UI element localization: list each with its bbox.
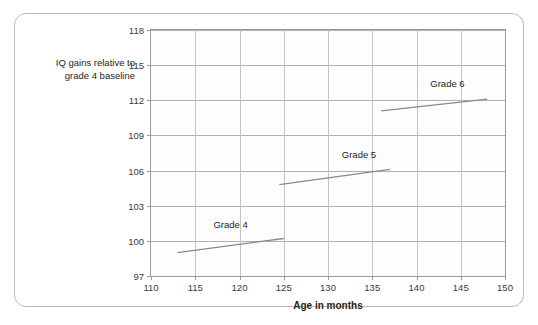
y-tick-label-100: 100: [128, 235, 144, 246]
x-tick-mark-120: [240, 276, 241, 280]
x-tick-mark-150: [505, 276, 506, 280]
series-line-grade-4: [178, 239, 284, 253]
y-tick-label-97: 97: [133, 271, 144, 282]
chart-card: IQ gains relative to grade 4 baseline 97…: [14, 13, 524, 307]
y-axis-title-line-1: IQ gains relative to: [25, 56, 135, 69]
x-tick-label-120: 120: [232, 282, 248, 293]
series-line-grade-5: [279, 169, 390, 184]
x-tick-mark-145: [461, 276, 462, 280]
y-tick-label-103: 103: [128, 200, 144, 211]
x-tick-mark-135: [372, 276, 373, 280]
x-tick-mark-130: [328, 276, 329, 280]
x-tick-mark-115: [195, 276, 196, 280]
y-axis-title: IQ gains relative to grade 4 baseline: [25, 56, 135, 82]
plot-area: 97100103106109112115118 1101151201251301…: [150, 29, 506, 277]
series-line-grade-6: [381, 99, 487, 111]
y-tick-label-118: 118: [129, 25, 144, 36]
x-tick-mark-140: [417, 276, 418, 280]
x-tick-label-150: 150: [497, 282, 513, 293]
y-tick-label-115: 115: [129, 60, 144, 71]
y-tick-label-106: 106: [128, 165, 144, 176]
y-axis-title-line-2: grade 4 baseline: [25, 69, 135, 82]
series-label-grade-4: Grade 4: [213, 219, 247, 230]
x-tick-mark-110: [151, 276, 152, 280]
x-tick-label-145: 145: [453, 282, 469, 293]
x-axis-title: Age in months: [150, 300, 506, 311]
y-tick-label-112: 112: [129, 95, 144, 106]
x-tick-label-125: 125: [276, 282, 292, 293]
series-label-grade-6: Grade 6: [430, 78, 464, 89]
x-tick-label-135: 135: [364, 282, 380, 293]
x-tick-mark-125: [284, 276, 285, 280]
series-lines: [151, 30, 505, 276]
y-tick-label-109: 109: [128, 130, 144, 141]
x-tick-label-110: 110: [143, 282, 158, 293]
x-tick-label-140: 140: [409, 282, 425, 293]
series-label-grade-5: Grade 5: [342, 149, 376, 160]
x-tick-label-130: 130: [320, 282, 336, 293]
x-tick-label-115: 115: [188, 282, 203, 293]
